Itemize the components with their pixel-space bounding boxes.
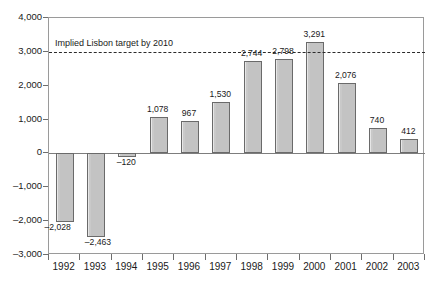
x-axis-tick <box>299 254 300 260</box>
x-axis-label-2001: 2001 <box>330 262 361 272</box>
bar-value-label-1996: 967 <box>167 109 211 118</box>
x-axis-label-2003: 2003 <box>393 262 424 272</box>
bar-1992 <box>56 153 74 222</box>
bar-1996 <box>181 121 199 154</box>
x-axis-tick <box>361 254 362 260</box>
x-axis-tick <box>173 254 174 260</box>
bar-value-label-2003: 412 <box>386 127 430 136</box>
y-axis-tick-label: –1,000 <box>0 182 42 192</box>
bar-chart: 4,0003,0002,0001,0000–1,000–2,000–3,000 … <box>0 0 436 283</box>
x-axis-tick <box>79 254 80 260</box>
x-axis-tick <box>48 254 49 260</box>
y-axis-tick-label: 2,000 <box>0 80 42 90</box>
bar-value-label-1997: 1,530 <box>198 90 242 99</box>
x-axis-label-1996: 1996 <box>173 262 204 272</box>
x-axis-tick <box>236 254 237 260</box>
x-axis-label-1997: 1997 <box>205 262 236 272</box>
x-axis-tick <box>267 254 268 260</box>
y-axis-tick-label: 1,000 <box>0 114 42 124</box>
x-axis-tick <box>330 254 331 260</box>
bar-1999 <box>275 59 293 154</box>
x-axis-label-1994: 1994 <box>111 262 142 272</box>
x-axis-label-1992: 1992 <box>48 262 79 272</box>
y-axis-tick-label: 3,000 <box>0 46 42 56</box>
bar-value-label-1994: –120 <box>104 158 148 167</box>
x-axis-tick <box>111 254 112 260</box>
y-axis-tick-label: 0 <box>0 148 42 158</box>
bar-value-label-2000: 3,291 <box>292 30 336 39</box>
y-axis-tick-label: 4,000 <box>0 12 42 22</box>
x-axis-label-1998: 1998 <box>236 262 267 272</box>
x-axis-label-1995: 1995 <box>142 262 173 272</box>
bar-1998 <box>244 61 262 154</box>
x-axis-tick <box>424 254 425 260</box>
x-axis-tick <box>205 254 206 260</box>
bar-2002 <box>369 128 387 153</box>
x-axis-label-2000: 2000 <box>299 262 330 272</box>
bar-1993 <box>87 153 105 236</box>
bar-1997 <box>212 102 230 154</box>
bar-2001 <box>338 83 356 153</box>
bar-2003 <box>400 139 418 153</box>
bar-2000 <box>306 42 324 153</box>
x-axis-label-1993: 1993 <box>79 262 110 272</box>
bar-1995 <box>150 117 168 153</box>
bar-value-label-2001: 2,076 <box>324 71 368 80</box>
x-axis-tick <box>142 254 143 260</box>
implied-lisbon-target-label: Implied Lisbon target by 2010 <box>55 38 173 48</box>
bar-value-label-1999: 2,798 <box>261 47 305 56</box>
bar-value-label-1993: –2,463 <box>76 238 120 247</box>
x-axis-label-1999: 1999 <box>267 262 298 272</box>
x-axis-label-2002: 2002 <box>361 262 392 272</box>
x-axis-tick <box>393 254 394 260</box>
zero-baseline <box>49 153 425 154</box>
bar-value-label-1992: –2,028 <box>36 223 80 232</box>
y-axis-tick-label: –3,000 <box>0 249 42 259</box>
bar-value-label-2002: 740 <box>355 116 399 125</box>
